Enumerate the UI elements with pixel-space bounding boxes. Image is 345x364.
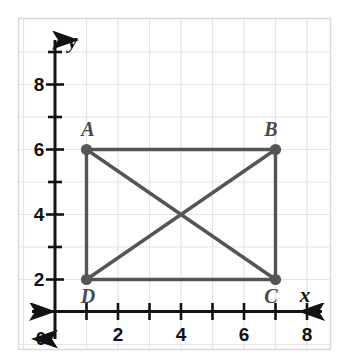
vertex-label-b: B: [263, 118, 277, 140]
vertex-label-d: D: [80, 285, 95, 307]
vertex-point-d: [81, 274, 92, 285]
y-tick-label-6: 6: [34, 139, 45, 160]
vertex-label-c: C: [264, 285, 278, 307]
vertex-point-c: [270, 274, 281, 285]
figure-frame: [19, 19, 331, 350]
x-tick-label-6: 6: [239, 324, 250, 345]
vertex-point-b: [270, 144, 281, 155]
y-tick-label-8: 8: [34, 74, 45, 95]
vertex-label-a: A: [79, 118, 94, 140]
origin-label: 0: [36, 328, 47, 349]
y-tick-label-4: 4: [34, 204, 45, 225]
vertex-point-a: [81, 144, 92, 155]
x-tick-label-4: 4: [176, 324, 187, 345]
y-tick-label-2: 2: [34, 269, 45, 290]
x-tick-label-2: 2: [113, 324, 124, 345]
x-axis-label: x: [299, 283, 311, 307]
x-tick-label-8: 8: [302, 324, 313, 345]
coordinate-plane-graphic: 2 4 6 8 2 4 6 8 0 y x A B: [0, 0, 345, 364]
coordinate-plane-figure: 2 4 6 8 2 4 6 8 0 y x A B: [0, 0, 345, 364]
